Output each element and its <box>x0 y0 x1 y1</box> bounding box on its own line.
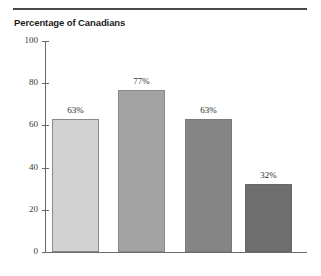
x-axis-line <box>45 252 307 253</box>
y-axis-line <box>45 41 46 253</box>
y-tick-label: 20 <box>14 204 38 214</box>
bar <box>52 119 99 252</box>
bar-value-label: 77% <box>118 76 165 86</box>
bar-value-label: 32% <box>245 170 292 180</box>
y-tick-mark <box>42 83 49 84</box>
y-tick-label: 40 <box>14 162 38 172</box>
bar <box>245 184 292 252</box>
y-tick-label: 80 <box>14 77 38 87</box>
y-tick-mark <box>42 168 49 169</box>
bar-value-label: 63% <box>52 105 99 115</box>
y-tick-label: 60 <box>14 119 38 129</box>
y-tick-label: 100 <box>14 35 38 45</box>
y-tick-mark <box>42 252 49 253</box>
plot-area: 100806040200 63%77%63%32% <box>0 0 321 276</box>
y-tick-mark <box>42 125 49 126</box>
y-tick-label: 0 <box>14 246 38 256</box>
bar <box>118 90 165 252</box>
y-tick-mark <box>42 41 49 42</box>
bar-chart: Percentage of Canadians 100806040200 63%… <box>0 0 321 276</box>
bar-value-label: 63% <box>185 105 232 115</box>
y-tick-mark <box>42 210 49 211</box>
bar <box>185 119 232 252</box>
